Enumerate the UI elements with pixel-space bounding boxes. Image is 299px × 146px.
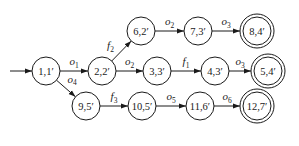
state-node-n4: 4,3′ <box>201 57 229 85</box>
state-node-n9: 9,5′ <box>72 92 100 120</box>
edge-label: o6 <box>222 90 232 105</box>
edge-subscript: 3 <box>227 21 231 30</box>
nodes: 1,1′2,2′6,2′7,3′8,4′3,3′4,3′5,4′9,5′10,5… <box>32 14 285 123</box>
state-node-n5: 5,4′ <box>251 54 285 88</box>
edge-n1-n9: o4 <box>57 73 77 97</box>
edge-subscript: 2 <box>110 45 114 54</box>
edge-n10-n11: o5 <box>156 90 186 106</box>
edge-label: o1 <box>69 55 79 70</box>
state-node-n3: 3,3′ <box>143 57 171 85</box>
state-node-n1: 1,1′ <box>32 57 60 85</box>
state-label: 1,1′ <box>38 66 53 77</box>
state-label: 12,7′ <box>247 101 268 112</box>
edge-subscript: 2 <box>170 21 174 30</box>
edge-n1-n2: o1 <box>60 55 88 71</box>
edge-subscript: 3 <box>241 61 245 70</box>
edge-n7-n8: o3 <box>212 15 240 31</box>
edge-subscript: 1 <box>75 61 79 70</box>
state-node-n7: 7,3′ <box>184 17 212 45</box>
edge-subscript: 6 <box>228 96 232 105</box>
edge-subscript: 3 <box>114 96 118 105</box>
edge-label: o2 <box>165 15 175 30</box>
edge-n4-n5: o3 <box>229 55 251 71</box>
edge-subscript: 2 <box>130 61 134 70</box>
edge-n11-n12: o6 <box>214 90 240 106</box>
edge-subscript: 1 <box>186 61 190 70</box>
state-node-n12: 12,7′ <box>240 89 274 123</box>
state-node-n10: 10,5′ <box>128 92 156 120</box>
state-label: 10,5′ <box>132 101 153 112</box>
edge-n3-n4: f1 <box>171 55 201 71</box>
state-label: 7,3′ <box>190 26 205 37</box>
edge-n2-n3: o2 <box>116 55 143 71</box>
edge-label: f3 <box>111 90 118 105</box>
edge-subscript: 5 <box>172 96 176 105</box>
state-label: 2,2′ <box>94 66 109 77</box>
state-node-n8: 8,4′ <box>240 14 274 48</box>
edge-label: o3 <box>235 55 245 70</box>
edge-label: o2 <box>125 55 135 70</box>
state-label: 3,3′ <box>149 66 164 77</box>
state-label: 8,4′ <box>249 26 264 37</box>
state-label: 5,4′ <box>260 66 275 77</box>
state-diagram: o1o4f2o2o2o3f1o3f3o5o6 1,1′2,2′6,2′7,3′8… <box>0 0 299 146</box>
state-label: 6,2′ <box>133 26 148 37</box>
state-label: 4,3′ <box>207 66 222 77</box>
state-label: 11,6′ <box>190 101 210 112</box>
state-node-n2: 2,2′ <box>88 57 116 85</box>
edge-n6-n7: o2 <box>155 15 184 31</box>
edge-subscript: 4 <box>73 78 77 87</box>
edge-label: o3 <box>221 15 231 30</box>
edge-label: f2 <box>107 39 114 54</box>
state-node-n11: 11,6′ <box>186 92 214 120</box>
edge-label: o4 <box>67 73 77 88</box>
edge-label: o5 <box>166 90 176 105</box>
edge-n9-n10: f3 <box>100 90 128 106</box>
edge-label: f1 <box>183 55 190 70</box>
state-label: 9,5′ <box>78 101 93 112</box>
state-node-n6: 6,2′ <box>127 17 155 45</box>
